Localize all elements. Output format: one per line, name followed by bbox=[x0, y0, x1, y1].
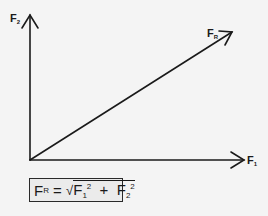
resultant-formula: FR = √ F12 + F22 bbox=[29, 178, 123, 202]
sqrt-symbol: √ bbox=[66, 183, 73, 198]
resultant-label: FR bbox=[207, 28, 218, 40]
resultant-vector-arrow bbox=[30, 31, 232, 160]
f1-label: F1 bbox=[247, 155, 257, 167]
f2-label: F2 bbox=[10, 13, 20, 25]
f1-axis-arrow bbox=[30, 152, 244, 168]
f2-axis-arrow bbox=[22, 15, 38, 160]
